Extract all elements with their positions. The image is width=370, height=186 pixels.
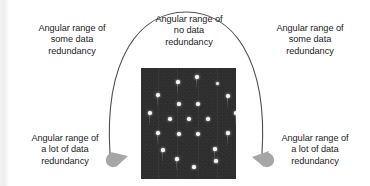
sinogram-point-source: [148, 111, 151, 114]
caption-bottom-left: Angular range of a lot of data redundanc…: [12, 133, 118, 167]
sinogram-streak: [158, 68, 159, 179]
sinogram-point-source: [168, 117, 171, 120]
sinogram-point-source: [161, 148, 164, 151]
sinogram-point-source: [175, 157, 178, 160]
sinogram-point-source: [156, 93, 159, 96]
sinogram-streak: [198, 68, 199, 179]
sinogram-point-source: [226, 131, 229, 134]
sinogram-point-source: [213, 147, 216, 150]
sinogram-point-source: [196, 132, 199, 135]
caption-bottom-right: Angular range of a lot of data redundanc…: [262, 133, 368, 167]
sinogram-point-source: [187, 117, 190, 120]
caption-top-left: Angular range of some data redundancy: [18, 23, 126, 57]
sinogram-noise-texture: [141, 68, 236, 179]
sinogram-point-source: [214, 159, 217, 162]
sinogram-point-source: [192, 165, 195, 168]
sinogram-point-source: [156, 131, 159, 134]
sinogram-point-source: [177, 132, 180, 135]
sinogram-point-source: [196, 102, 199, 105]
sinogram-image: [141, 68, 236, 179]
figure-root: Angular range of some data redundancy An…: [0, 0, 370, 186]
sinogram-point-source: [234, 111, 236, 114]
caption-top-middle: Angular range of no data redundancy: [133, 14, 245, 48]
sinogram-point-source: [216, 82, 219, 85]
caption-top-right: Angular range of some data redundancy: [256, 23, 364, 57]
sinogram-point-source: [195, 75, 198, 78]
sinogram-point-source: [176, 80, 179, 83]
sinogram-point-source: [226, 94, 229, 97]
sinogram-point-source: [206, 117, 209, 120]
sinogram-point-source: [177, 102, 180, 105]
